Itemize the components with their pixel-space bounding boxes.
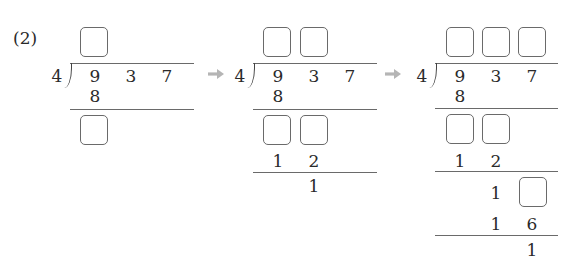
dividend-digit: 9	[85, 66, 105, 86]
dividend-digit: 9	[450, 66, 470, 86]
step1-product: 8	[85, 86, 105, 106]
step3-product-digit: 6	[522, 214, 542, 234]
problem-label: (2)	[13, 28, 37, 48]
step1-product: 8	[268, 86, 288, 106]
dividend-digit: 9	[268, 66, 288, 86]
step1-product: 8	[450, 86, 470, 106]
quotient-digit-box[interactable]	[446, 27, 474, 57]
quotient-digit-box[interactable]	[482, 27, 510, 57]
dividend-digit: 7	[522, 66, 542, 86]
quotient-digit-box[interactable]	[80, 27, 108, 57]
division-bar	[435, 63, 558, 64]
right-arrow-icon	[384, 68, 402, 80]
subtraction-line	[435, 171, 558, 172]
quotient-digit-box[interactable]	[300, 27, 328, 57]
dividend-digit: 7	[340, 66, 360, 86]
step2-bring-down-digit: 1	[486, 183, 506, 203]
quotient-digit-box[interactable]	[263, 27, 291, 57]
remainder-digit-box[interactable]	[446, 114, 474, 144]
bring-down-digit-box[interactable]	[519, 177, 547, 207]
subtraction-line	[253, 172, 377, 173]
dividend-digit: 3	[121, 66, 141, 86]
dividend-digit: 3	[304, 66, 324, 86]
division-bracket	[247, 63, 255, 88]
division-bracket	[64, 63, 72, 88]
subtraction-line	[435, 108, 558, 109]
step2-product-digit: 1	[450, 151, 470, 171]
step2-product-digit: 2	[486, 151, 506, 171]
dividend-digit: 7	[157, 66, 177, 86]
dividend-digit: 3	[486, 66, 506, 86]
remainder-digit-box[interactable]	[80, 115, 108, 145]
final-remainder: 1	[522, 240, 542, 260]
quotient-digit-box[interactable]	[518, 27, 546, 57]
division-bar	[253, 63, 377, 64]
division-bracket	[429, 63, 437, 88]
step2-product-digit: 2	[304, 151, 324, 171]
division-bar	[70, 63, 194, 64]
remainder-digit-box[interactable]	[482, 114, 510, 144]
remainder-digit-box[interactable]	[263, 115, 291, 145]
subtraction-line	[253, 109, 377, 110]
remainder-digit-box[interactable]	[300, 115, 328, 145]
step2-product-digit: 1	[268, 151, 288, 171]
step3-product-digit: 1	[486, 214, 506, 234]
subtraction-line	[435, 235, 558, 236]
right-arrow-icon	[207, 68, 225, 80]
step2-remainder: 1	[304, 176, 324, 196]
subtraction-line	[70, 109, 194, 110]
